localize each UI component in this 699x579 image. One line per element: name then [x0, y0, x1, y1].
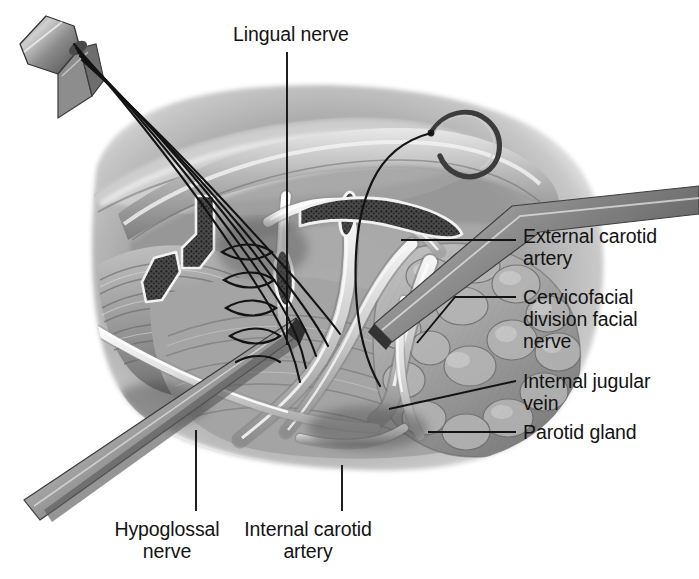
label-lingual-nerve: Lingual nerve: [233, 23, 349, 45]
label-internal-jugular-vein: Internal jugular vein: [523, 370, 650, 414]
illustration-figure: Lingual nerve External carotid artery Ce…: [0, 0, 699, 579]
label-internal-carotid-artery: Internal carotid artery: [244, 518, 372, 562]
label-hypoglossal-nerve: Hypoglossal nerve: [107, 518, 227, 562]
label-external-carotid-artery: External carotid artery: [523, 225, 657, 269]
label-parotid-gland: Parotid gland: [523, 421, 637, 443]
label-cervicofacial-division-facial-nerve: Cervicofacial division facial nerve: [523, 286, 637, 352]
